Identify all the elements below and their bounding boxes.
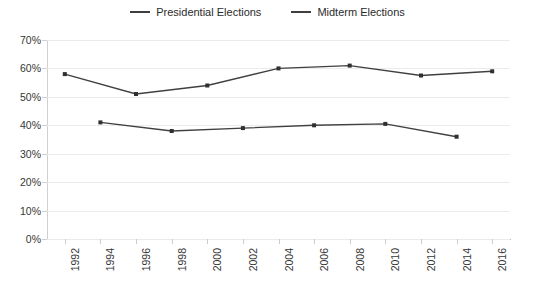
y-axis-tick-label: 0% — [26, 234, 41, 245]
y-axis-tick — [42, 68, 47, 69]
x-axis-tick-label: 2010 — [390, 248, 401, 271]
gridline — [47, 182, 510, 183]
data-point-marker — [241, 126, 245, 130]
x-axis-tick — [279, 239, 280, 244]
x-axis-tick — [350, 239, 351, 244]
x-axis-tick-label: 1998 — [177, 248, 188, 271]
data-point-marker — [348, 64, 352, 68]
chart-legend: Presidential Elections Midterm Elections — [0, 6, 535, 18]
y-axis-tick-label: 50% — [20, 91, 41, 102]
x-axis-tick — [100, 239, 101, 244]
x-axis-tick-label: 2016 — [497, 248, 508, 271]
legend-item-midterm-elections[interactable]: Midterm Elections — [291, 6, 404, 18]
legend-label: Midterm Elections — [317, 6, 404, 18]
gridline — [47, 97, 510, 98]
gridline — [47, 211, 510, 212]
x-axis-tick-label: 1996 — [141, 248, 152, 271]
data-point-marker — [455, 135, 459, 139]
x-axis-tick-label: 1992 — [70, 248, 81, 271]
y-axis-tick — [42, 97, 47, 98]
data-point-marker — [205, 84, 209, 88]
x-axis-tick — [492, 239, 493, 244]
y-axis-tick — [42, 154, 47, 155]
line-swatch-icon — [291, 11, 311, 13]
data-point-marker — [490, 69, 494, 73]
line-swatch-icon — [130, 11, 150, 13]
x-axis-tick — [421, 239, 422, 244]
y-axis-tick-label: 30% — [20, 148, 41, 159]
line-chart: Presidential Elections Midterm Elections… — [0, 0, 535, 291]
x-axis-tick-label: 1994 — [105, 248, 116, 271]
y-axis-tick-label: 10% — [20, 205, 41, 216]
data-point-marker — [134, 92, 138, 96]
y-axis-tick-label: 60% — [20, 63, 41, 74]
y-axis-tick-label: 20% — [20, 177, 41, 188]
legend-label: Presidential Elections — [156, 6, 261, 18]
gridline — [47, 125, 510, 126]
data-point-marker — [170, 129, 174, 133]
gridline — [47, 68, 510, 69]
x-axis-tick — [314, 239, 315, 244]
x-axis-tick — [172, 239, 173, 244]
x-axis-tick — [207, 239, 208, 244]
x-axis-tick-label: 2012 — [426, 248, 437, 271]
x-axis-tick-label: 2000 — [212, 248, 223, 271]
x-axis-tick — [385, 239, 386, 244]
x-axis-tick-label: 2002 — [248, 248, 259, 271]
data-point-marker — [98, 120, 102, 124]
y-axis-tick — [42, 40, 47, 41]
y-axis-tick — [42, 239, 47, 240]
y-axis-tick — [42, 211, 47, 212]
y-axis-tick-label: 70% — [20, 35, 41, 46]
x-axis-tick — [243, 239, 244, 244]
gridline — [47, 154, 510, 155]
x-axis-tick-label: 2006 — [319, 248, 330, 271]
x-axis-tick-label: 2004 — [284, 248, 295, 271]
y-axis-tick — [42, 182, 47, 183]
legend-item-presidential-elections[interactable]: Presidential Elections — [130, 6, 261, 18]
x-axis-tick-label: 2014 — [462, 248, 473, 271]
data-point-marker — [63, 72, 67, 76]
x-axis-tick — [65, 239, 66, 244]
data-point-marker — [419, 74, 423, 78]
x-axis-tick-label: 2008 — [355, 248, 366, 271]
y-axis-tick — [42, 125, 47, 126]
gridline — [47, 40, 510, 41]
x-axis-tick — [136, 239, 137, 244]
series-line-presidential-elections — [65, 66, 492, 94]
x-axis-tick — [457, 239, 458, 244]
y-axis-tick-label: 40% — [20, 120, 41, 131]
